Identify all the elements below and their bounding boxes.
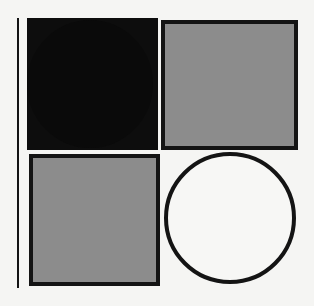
artwork-canvas — [0, 0, 314, 306]
gray-square-top-right — [161, 20, 298, 150]
black-filled-circle — [27, 20, 153, 148]
outlined-circle-bottom-right — [164, 152, 296, 284]
gray-square-bottom-left — [29, 154, 160, 286]
vertical-rule-line — [17, 18, 19, 288]
